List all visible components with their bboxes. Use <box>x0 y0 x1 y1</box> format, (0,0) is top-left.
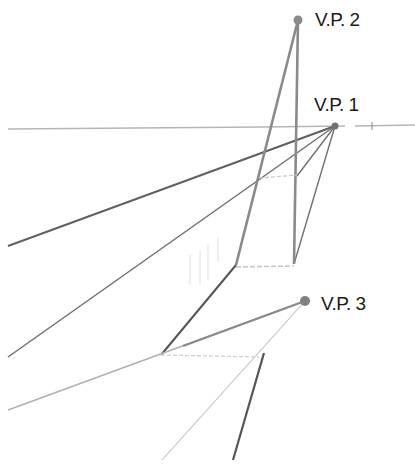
vp1-dot <box>332 123 339 130</box>
vp1-line-to-box-br <box>294 126 335 264</box>
vp2-line-right <box>294 20 298 264</box>
vp3-line-diagonal <box>162 301 305 460</box>
horizon-line <box>8 127 262 129</box>
vp2-dot <box>294 16 303 25</box>
lower-right-edge <box>233 353 264 460</box>
vp2-label: V.P. 2 <box>315 10 360 29</box>
vp3-label: V.P. 3 <box>321 294 366 313</box>
lower-dashed-edge <box>161 355 259 357</box>
vp1-label: V.P. 1 <box>314 95 359 114</box>
horizon-line-right <box>355 125 415 126</box>
box-lower-left-edge <box>161 265 236 355</box>
perspective-diagram <box>0 0 415 469</box>
vp3-dot <box>300 296 310 306</box>
box-bottom-edge <box>236 266 294 267</box>
faint-hatching <box>190 238 218 285</box>
vp1-line-top <box>8 126 335 246</box>
